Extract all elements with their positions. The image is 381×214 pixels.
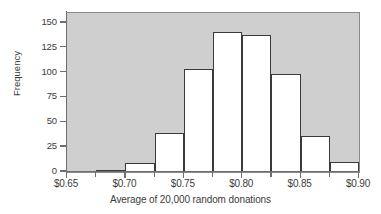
y-axis-tick-label: 50 (20, 115, 57, 126)
plot-area (66, 12, 360, 173)
x-axis-tick (212, 172, 213, 177)
y-axis-tick-label: 100 (20, 66, 57, 77)
x-axis-tick-label: $0.70 (94, 178, 154, 189)
x-axis-tick (154, 172, 155, 177)
x-axis-title: Average of 20,000 random donations (0, 194, 381, 205)
histogram-bar (213, 32, 242, 172)
x-axis-tick-label: $0.85 (270, 178, 330, 189)
x-axis-tick (270, 172, 271, 177)
y-axis-tick-label: 75 (20, 90, 57, 101)
y-axis-title: Frequency (11, 34, 22, 114)
x-axis-tick-label: $0.75 (153, 178, 213, 189)
histogram-bar (271, 74, 300, 172)
y-axis-tick-label: 125 (20, 41, 57, 52)
y-axis-tick (60, 145, 66, 146)
x-axis-tick-label: $0.65 (36, 178, 96, 189)
y-axis-tick (60, 96, 66, 97)
x-axis-tick-label: $0.80 (211, 178, 271, 189)
y-axis-tick-label: 0 (20, 165, 57, 176)
bars-layer (67, 13, 359, 172)
x-axis-tick-label: $0.90 (328, 178, 381, 189)
histogram-bar (184, 69, 213, 172)
y-axis-tick (60, 46, 66, 47)
y-axis-tick-label: 150 (20, 16, 57, 27)
histogram-bar (155, 133, 184, 172)
y-axis-tick-label: 25 (20, 140, 57, 151)
histogram-bar (301, 136, 330, 172)
histogram-figure: 0255075100125150 Frequency $0.65$0.70$0.… (0, 0, 381, 214)
x-axis-tick (95, 172, 96, 177)
x-axis-tick (329, 172, 330, 177)
y-axis-tick (60, 21, 66, 22)
histogram-bar (242, 35, 271, 172)
y-axis-tick (60, 121, 66, 122)
y-axis-line (66, 11, 67, 172)
y-axis-tick (60, 71, 66, 72)
